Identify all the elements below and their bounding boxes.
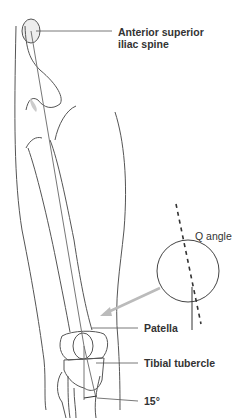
asis-label: Anterior superior iliac spine	[118, 26, 204, 50]
shade	[30, 98, 37, 112]
asis-label-line2: iliac spine	[118, 38, 204, 50]
femur-left	[28, 148, 70, 332]
hip-curve	[55, 106, 76, 140]
angle-leader	[97, 398, 138, 401]
magnify-arrow-line	[106, 288, 160, 313]
asis-to-patella-line	[31, 31, 84, 346]
magnify-arrowhead	[100, 307, 112, 316]
q-angle-label: Q angle	[195, 230, 232, 242]
femur-right	[50, 140, 92, 330]
angle-arc-15	[84, 396, 97, 398]
angle-value-label: 15°	[144, 395, 160, 407]
patella-bone	[73, 333, 93, 359]
q-angle-dashed-line	[176, 204, 201, 324]
femur-head	[26, 137, 42, 148]
leg-anatomy-illustration	[0, 0, 249, 418]
fibula	[58, 372, 71, 418]
leg-right-outline	[115, 112, 126, 410]
leg-left-outline	[15, 26, 46, 410]
tibia-shaft-left	[74, 388, 76, 418]
q-angle-detail-circle	[157, 240, 219, 302]
asis-label-line1: Anterior superior	[118, 26, 204, 38]
tibial-tubercle-label: Tibial tubercle	[144, 357, 215, 369]
patella-label: Patella	[144, 322, 178, 334]
